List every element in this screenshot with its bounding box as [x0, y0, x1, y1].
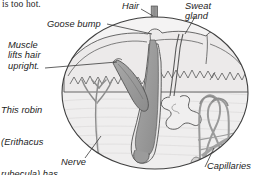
label-sweat-gland-text: Sweat gland	[185, 1, 211, 21]
label-nerve: Nerve	[61, 157, 86, 167]
robin-caption-line-3: rubecula) has	[1, 169, 58, 175]
robin-caption-line-2: (Erithacus	[1, 137, 58, 148]
label-sweat-gland: Sweat gland	[185, 1, 211, 22]
label-capillaries: Capillaries	[207, 161, 251, 171]
label-muscle: Muscle lifts hair upright.	[8, 40, 41, 71]
cut-body-text: is too hot.	[2, 0, 41, 9]
label-hair: Hair	[122, 1, 139, 11]
robin-caption-line-1: This robin	[1, 105, 58, 116]
label-goose-bump: Goose bump	[47, 19, 101, 29]
vignette-contents	[60, 14, 255, 172]
robin-caption: This robin (Erithacus rubecula) has fluf…	[1, 84, 58, 175]
figure-canvas: is too hot. Hair Sweat gland Goose bump …	[0, 0, 255, 175]
